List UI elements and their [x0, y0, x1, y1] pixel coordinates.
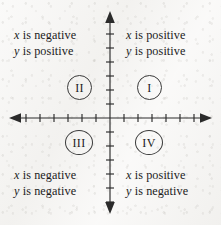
variable-x: x — [14, 168, 20, 182]
quadrant-label-3: III — [65, 130, 93, 155]
y-sign-word: is positive — [23, 44, 74, 58]
quadrant-3-sign-text: x is negative y is negative — [14, 168, 76, 199]
quadrant-numeral-1: I — [147, 82, 151, 94]
x-sign-word: is negative — [23, 28, 77, 42]
variable-x: x — [126, 168, 132, 182]
quadrant-1-y-sign: y is positive — [126, 44, 186, 60]
variable-x: x — [126, 28, 132, 42]
variable-y: y — [126, 184, 132, 198]
y-sign-word: is positive — [135, 44, 186, 58]
variable-y: y — [14, 184, 20, 198]
quadrant-1-x-sign: x is positive — [126, 28, 186, 44]
x-sign-word: is negative — [23, 168, 77, 182]
variable-y: y — [126, 44, 132, 58]
quadrant-4-sign-text: x is positive y is negative — [126, 168, 188, 199]
x-axis-right-arrowhead — [200, 113, 212, 123]
x-sign-word: is positive — [135, 168, 186, 182]
quadrant-numeral-3: III — [73, 137, 86, 149]
y-axis-up-arrowhead — [105, 11, 115, 23]
variable-y: y — [14, 44, 20, 58]
quadrant-3-x-sign: x is negative — [14, 168, 76, 184]
quadrant-2-x-sign: x is negative — [14, 28, 76, 44]
quadrant-label-4: IV — [135, 130, 163, 155]
y-axis-down-arrowhead — [105, 202, 115, 214]
y-sign-word: is negative — [135, 184, 189, 198]
quadrant-1-sign-text: x is positive y is positive — [126, 28, 186, 59]
x-sign-word: is positive — [135, 28, 186, 42]
quadrant-2-sign-text: x is negative y is positive — [14, 28, 76, 59]
quadrant-2-y-sign: y is positive — [14, 44, 76, 60]
quadrant-label-2: II — [67, 75, 92, 100]
quadrant-diagram: x is negative y is positive x is positiv… — [0, 0, 221, 225]
y-sign-word: is negative — [23, 184, 77, 198]
quadrant-numeral-2: II — [75, 82, 84, 94]
quadrant-numeral-4: IV — [142, 137, 155, 149]
variable-x: x — [14, 28, 20, 42]
quadrant-label-1: I — [137, 75, 162, 100]
x-axis-left-arrowhead — [9, 113, 21, 123]
quadrant-4-x-sign: x is positive — [126, 168, 188, 184]
quadrant-4-y-sign: y is negative — [126, 184, 188, 200]
quadrant-3-y-sign: y is negative — [14, 184, 76, 200]
